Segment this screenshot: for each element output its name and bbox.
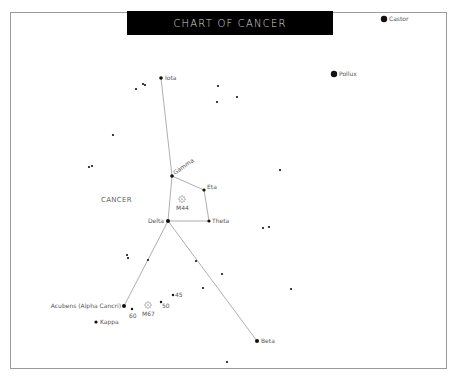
cluster-dot-icon xyxy=(145,302,146,303)
star-icon xyxy=(142,83,144,85)
star-label-theta: Theta xyxy=(211,217,230,224)
constellation-line xyxy=(204,190,209,221)
constellation-line xyxy=(124,221,168,306)
cluster-dot-icon xyxy=(183,200,184,201)
star-icon xyxy=(147,259,149,261)
cluster-label: M67 xyxy=(142,310,155,317)
star-label-delta: Delta xyxy=(148,217,164,224)
star-label-s60: 60 xyxy=(129,312,137,319)
star-label-iota: Iota xyxy=(165,74,177,81)
star-icon xyxy=(127,257,129,259)
star-icon xyxy=(217,85,219,87)
constellation-line xyxy=(161,78,172,176)
cluster-dot-icon xyxy=(150,304,151,305)
cluster-dot-icon xyxy=(149,302,150,303)
star-icon xyxy=(126,254,128,256)
star-label-eta: Eta xyxy=(207,183,217,190)
star-icon xyxy=(216,101,218,103)
star-icon xyxy=(195,260,197,262)
cluster-dot-icon xyxy=(147,301,148,302)
star-clusters: M44M67 xyxy=(142,195,189,317)
constellation-label: CANCER xyxy=(101,196,132,204)
s45-star-icon xyxy=(172,294,174,296)
s60-star-icon xyxy=(131,308,133,310)
delta-star-icon xyxy=(166,219,170,223)
iota-star-icon xyxy=(159,76,163,80)
constellation-line xyxy=(172,176,204,190)
cluster-dot-icon xyxy=(144,304,145,305)
cluster-dot-icon xyxy=(147,307,148,308)
star-icon xyxy=(262,227,264,229)
cluster-dot-icon xyxy=(181,198,182,199)
cluster-dot-icon xyxy=(178,198,179,199)
star-icon xyxy=(290,288,292,290)
acubens-star-icon xyxy=(122,304,126,308)
pollux-star-icon xyxy=(331,71,337,77)
cluster-dot-icon xyxy=(183,196,184,197)
cluster-dot-icon xyxy=(179,196,180,197)
star-icon xyxy=(279,169,281,171)
gamma-star-icon xyxy=(170,174,174,178)
star-icon xyxy=(112,134,114,136)
star-label-s45: 45 xyxy=(175,291,183,298)
cluster-dot-icon xyxy=(181,201,182,202)
star-icon xyxy=(226,361,228,363)
constellation-line xyxy=(168,176,172,221)
cluster-dot-icon xyxy=(149,306,150,307)
star-chart: M44M67 CastorPolluxIotaGammaEtaDeltaThet… xyxy=(0,0,450,380)
star-label-pollux: Pollux xyxy=(339,70,357,77)
star-label-acubens: Acubens (Alpha Cancri) xyxy=(51,302,121,310)
named-stars: CastorPolluxIotaGammaEtaDeltaThetaAcuben… xyxy=(51,15,409,344)
theta-star-icon xyxy=(207,219,210,222)
cluster-m67: M67 xyxy=(142,301,155,317)
star-label-gamma: Gamma xyxy=(172,156,196,176)
cluster-label: M44 xyxy=(176,204,189,211)
cluster-dot-icon xyxy=(147,304,148,305)
cluster-dot-icon xyxy=(179,200,180,201)
star-icon xyxy=(221,273,223,275)
beta-star-icon xyxy=(255,339,259,343)
cluster-m44: M44 xyxy=(176,195,189,211)
castor-star-icon xyxy=(381,16,387,22)
star-icon xyxy=(88,166,90,168)
cluster-dot-icon xyxy=(145,306,146,307)
star-icon xyxy=(135,88,137,90)
constellation-lines xyxy=(124,78,257,341)
star-label-castor: Castor xyxy=(389,15,409,22)
eta-star-icon xyxy=(202,188,205,191)
star-icon xyxy=(202,287,204,289)
star-icon xyxy=(91,165,93,167)
star-icon xyxy=(268,226,270,228)
star-icon xyxy=(236,96,238,98)
star-icon xyxy=(144,84,146,86)
cluster-dot-icon xyxy=(181,195,182,196)
star-label-s50: 50 xyxy=(162,302,170,309)
constellation-line xyxy=(168,221,257,341)
star-label-kappa: Kappa xyxy=(100,318,119,326)
cluster-dot-icon xyxy=(184,198,185,199)
star-label-beta: Beta xyxy=(261,337,275,344)
kappa-star-icon xyxy=(94,320,97,323)
